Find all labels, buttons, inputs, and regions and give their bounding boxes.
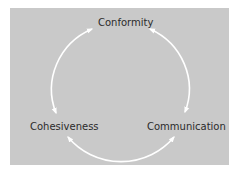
arrow-cohesiveness-to-conformity: [51, 29, 92, 113]
node-communication: Communication: [147, 121, 226, 132]
arrow-communication-to-conformity: [150, 29, 189, 112]
node-cohesiveness: Cohesiveness: [30, 121, 99, 132]
node-conformity: Conformity: [98, 17, 153, 28]
arrow-cohesiveness-communication: [68, 137, 174, 162]
